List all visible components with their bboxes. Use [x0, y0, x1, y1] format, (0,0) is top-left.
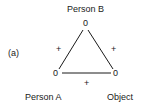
edge-left-sign: + [56, 44, 61, 54]
panel-label: (a) [8, 48, 19, 58]
edge-right-sign: + [111, 44, 116, 54]
triangle-edges [0, 0, 142, 106]
edge-left [59, 30, 83, 69]
node-left-value: 0 [53, 68, 58, 78]
node-right-label: Object [107, 92, 133, 102]
node-top-label: Person B [67, 4, 104, 14]
node-top-value: 0 [83, 18, 88, 28]
edge-right [88, 30, 113, 69]
node-right-value: 0 [113, 68, 118, 78]
node-left-label: Person A [25, 92, 62, 102]
edge-bottom-sign: + [84, 78, 89, 88]
